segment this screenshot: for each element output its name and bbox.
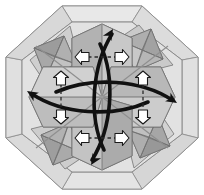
figure-root bbox=[0, 0, 204, 195]
rim-facet-s bbox=[62, 172, 142, 189]
rim-facet-e bbox=[182, 57, 198, 138]
rim-facet-w bbox=[6, 57, 22, 138]
rim-facet-n bbox=[62, 6, 142, 22]
origami-diagram bbox=[0, 0, 204, 195]
